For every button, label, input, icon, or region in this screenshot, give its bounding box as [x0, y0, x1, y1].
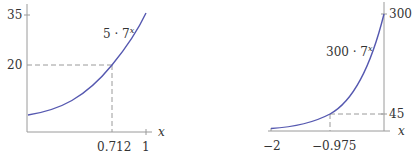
left-chart: 35 20 0.712 1 x 5 · 7x: [7, 4, 165, 154]
x-tick-label: 0.712: [97, 140, 131, 154]
curve-300-7x: [271, 14, 384, 129]
y-tick-label: 35: [7, 8, 22, 22]
function-label: 5 · 7x: [103, 26, 135, 41]
x-axis-label: x: [398, 124, 405, 138]
x-tick-label: −2: [263, 139, 281, 153]
y-tick-label: 20: [7, 58, 22, 72]
y-tick-label: 45: [389, 107, 404, 121]
function-label: 300 · 7x: [326, 44, 373, 59]
y-tick-label: 300: [389, 7, 412, 21]
right-chart: 300 45 −2 −0.975 x 300 · 7x: [263, 2, 412, 153]
x-axis-label: x: [158, 125, 165, 139]
x-tick-label: −0.975: [312, 139, 356, 153]
x-tick-label: 1: [142, 140, 150, 154]
figure: 35 20 0.712 1 x 5 · 7x 300 45 −2 −0.975 …: [0, 0, 418, 161]
